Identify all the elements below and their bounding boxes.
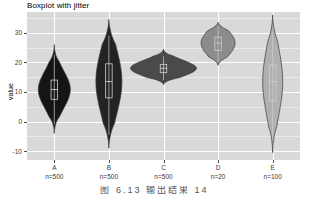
figure-caption: 图 6.13 输出结果 14 (0, 186, 309, 202)
y-tick-label: 10 (15, 88, 22, 95)
x-tick-category: E (248, 164, 298, 173)
x-tick-mark (54, 160, 55, 163)
plot-panel (27, 12, 300, 160)
chart-title: Boxplot with jitter (27, 1, 89, 10)
figure-root: Boxplot with jitter value -100102030An=5… (0, 0, 309, 202)
x-tick-label-group-e: En=100 (248, 164, 298, 181)
y-axis-label: value (7, 69, 14, 115)
x-tick-label-group-d: Dn=20 (193, 164, 243, 181)
y-tick-mark (24, 122, 27, 123)
x-tick-mark (273, 160, 274, 163)
x-tick-mark (164, 160, 165, 163)
y-tick-mark (24, 151, 27, 152)
y-tick-mark (24, 92, 27, 93)
x-tick-category: C (139, 164, 189, 173)
y-tick-label: 0 (18, 118, 22, 125)
violin-group-d (201, 22, 235, 65)
y-tick-mark (24, 62, 27, 63)
violin-group-b (96, 19, 122, 148)
x-tick-label-group-c: Cn=500 (139, 164, 189, 181)
violin-group-e (263, 15, 283, 153)
violin-layer (27, 12, 300, 160)
violin-group-a (38, 45, 70, 134)
x-tick-label-group-b: Bn=500 (84, 164, 134, 181)
violin-group-c (131, 49, 197, 85)
x-tick-mark (218, 160, 219, 163)
x-tick-category: B (84, 164, 134, 173)
x-tick-count: n=500 (84, 173, 134, 182)
x-tick-count: n=20 (193, 173, 243, 182)
x-tick-category: D (193, 164, 243, 173)
x-tick-count: n=500 (29, 173, 79, 182)
y-tick-label: 30 (15, 29, 22, 36)
y-tick-mark (24, 33, 27, 34)
y-tick-label: -10 (13, 148, 22, 155)
x-tick-mark (109, 160, 110, 163)
x-tick-count: n=100 (248, 173, 298, 182)
y-tick-label: 20 (15, 59, 22, 66)
figure-caption-text: 图 6.13 输出结果 14 (100, 186, 208, 196)
x-tick-count: n=500 (139, 173, 189, 182)
x-tick-category: A (29, 164, 79, 173)
chart-figure: Boxplot with jitter value -100102030An=5… (0, 0, 309, 180)
x-tick-label-group-a: An=500 (29, 164, 79, 181)
